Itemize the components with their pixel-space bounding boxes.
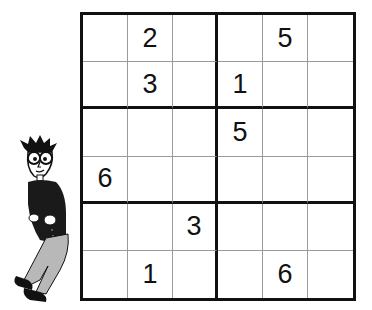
empty-cell[interactable] (83, 109, 128, 156)
given-cell: 3 (128, 62, 173, 109)
empty-cell[interactable] (83, 251, 128, 298)
shirt (28, 180, 66, 242)
given-cell: 2 (128, 15, 173, 62)
empty-cell[interactable] (308, 109, 353, 156)
empty-cell[interactable] (308, 62, 353, 109)
empty-cell[interactable] (173, 62, 218, 109)
empty-cell[interactable] (128, 157, 173, 204)
given-cell: 1 (128, 251, 173, 298)
empty-cell[interactable] (263, 157, 308, 204)
empty-cell[interactable] (173, 109, 218, 156)
empty-cell[interactable] (173, 251, 218, 298)
sudoku-grid: 253156316 (80, 12, 356, 301)
empty-cell[interactable] (308, 157, 353, 204)
hair (20, 135, 57, 154)
given-cell: 5 (263, 15, 308, 62)
given-cell: 6 (263, 251, 308, 298)
empty-cell[interactable] (218, 15, 263, 62)
empty-cell[interactable] (83, 62, 128, 109)
empty-cell[interactable] (308, 15, 353, 62)
given-cell: 3 (173, 204, 218, 251)
given-cell: 1 (218, 62, 263, 109)
empty-cell[interactable] (263, 62, 308, 109)
empty-cell[interactable] (83, 204, 128, 251)
empty-cell[interactable] (308, 204, 353, 251)
cartoon-character-icon (10, 134, 82, 306)
empty-cell[interactable] (128, 204, 173, 251)
given-cell: 6 (83, 157, 128, 204)
empty-cell[interactable] (218, 204, 263, 251)
empty-cell[interactable] (128, 109, 173, 156)
given-cell: 5 (218, 109, 263, 156)
empty-cell[interactable] (218, 251, 263, 298)
empty-cell[interactable] (173, 15, 218, 62)
empty-cell[interactable] (83, 15, 128, 62)
empty-cell[interactable] (263, 204, 308, 251)
empty-cell[interactable] (173, 157, 218, 204)
empty-cell[interactable] (218, 157, 263, 204)
empty-cell[interactable] (263, 109, 308, 156)
empty-cell[interactable] (308, 251, 353, 298)
